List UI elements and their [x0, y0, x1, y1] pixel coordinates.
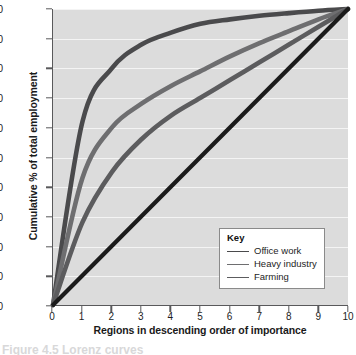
legend-line-swatch — [227, 251, 249, 252]
y-axis-title: Cumulative % of total employment — [27, 31, 39, 281]
x-tick-label: 8 — [277, 311, 301, 322]
x-tick-mark — [140, 306, 141, 312]
x-tick-label: 7 — [247, 311, 271, 322]
y-tick-label: 0 — [0, 301, 3, 312]
y-tick-mark — [46, 276, 52, 277]
y-tick-label: 100 — [0, 4, 3, 15]
x-tick-label: 4 — [158, 311, 182, 322]
x-tick-label: 5 — [188, 311, 212, 322]
x-tick-label: 2 — [99, 311, 123, 322]
figure-caption-text: Figure 4.5 Lorenz curves — [2, 345, 143, 355]
y-tick-mark — [46, 216, 52, 217]
y-tick-mark — [46, 38, 52, 39]
lorenz-curve-figure: Cumulative % of total employment 0102030… — [0, 0, 356, 355]
legend-item: Heavy industry — [227, 259, 318, 270]
x-tick-label: 6 — [218, 311, 242, 322]
x-tick-mark — [229, 306, 230, 312]
y-tick-label: 40 — [0, 182, 3, 193]
y-tick-label: 50 — [0, 152, 3, 163]
x-tick-label: 10 — [336, 311, 356, 322]
y-tick-mark — [46, 127, 52, 128]
legend-item-label: Office work — [254, 246, 301, 257]
x-tick-mark — [258, 306, 259, 312]
x-axis-title: Regions in descending order of importanc… — [52, 324, 348, 336]
y-tick-label: 60 — [0, 122, 3, 133]
x-tick-mark — [347, 306, 348, 312]
y-tick-label: 20 — [0, 241, 3, 252]
y-tick-mark — [46, 157, 52, 158]
legend-line-swatch — [227, 264, 249, 265]
x-tick-mark — [199, 306, 200, 312]
y-tick-mark — [46, 246, 52, 247]
x-tick-label: 0 — [40, 311, 64, 322]
legend-line-swatch — [227, 277, 249, 278]
x-tick-label: 9 — [306, 311, 330, 322]
legend-item-label: Heavy industry — [254, 259, 317, 270]
legend-box: Key Office workHeavy industryFarming — [219, 228, 325, 289]
y-tick-mark — [46, 97, 52, 98]
y-tick-mark — [46, 68, 52, 69]
x-tick-mark — [170, 306, 171, 312]
legend-item: Farming — [227, 272, 318, 283]
x-tick-label: 3 — [129, 311, 153, 322]
y-tick-label: 70 — [0, 93, 3, 104]
legend-entries: Office workHeavy industryFarming — [227, 246, 318, 283]
y-tick-label: 80 — [0, 63, 3, 74]
y-tick-label: 10 — [0, 271, 3, 282]
legend-title: Key — [227, 233, 318, 243]
y-tick-label: 30 — [0, 211, 3, 222]
x-tick-mark — [288, 306, 289, 312]
legend-item: Office work — [227, 246, 318, 257]
x-tick-mark — [81, 306, 82, 312]
x-tick-label: 1 — [70, 311, 94, 322]
y-tick-label: 90 — [0, 33, 3, 44]
y-tick-mark — [46, 8, 52, 9]
x-tick-mark — [318, 306, 319, 312]
figure-caption-strip: Figure 4.5 Lorenz curves — [0, 345, 356, 355]
y-tick-mark — [46, 186, 52, 187]
x-tick-mark — [110, 306, 111, 312]
x-tick-mark — [51, 306, 52, 312]
legend-item-label: Farming — [254, 272, 289, 283]
